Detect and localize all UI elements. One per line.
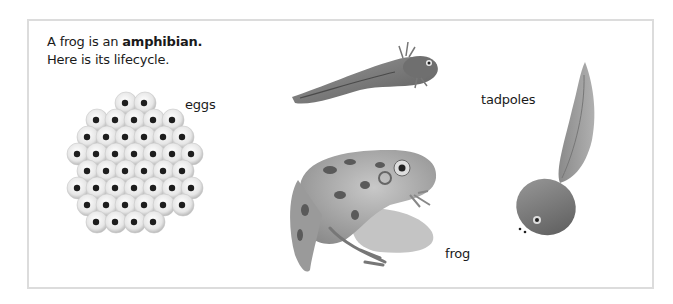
label-tadpoles: tadpoles: [481, 92, 535, 107]
label-frog: frog: [445, 246, 470, 261]
lifecycle-illustrations: [0, 0, 673, 304]
frog-spawn-eggs: [67, 92, 203, 233]
tadpole-with-external-gills: [292, 42, 438, 104]
label-eggs: eggs: [185, 97, 215, 112]
young-tadpole: [508, 62, 594, 244]
adult-frog: [290, 150, 436, 272]
